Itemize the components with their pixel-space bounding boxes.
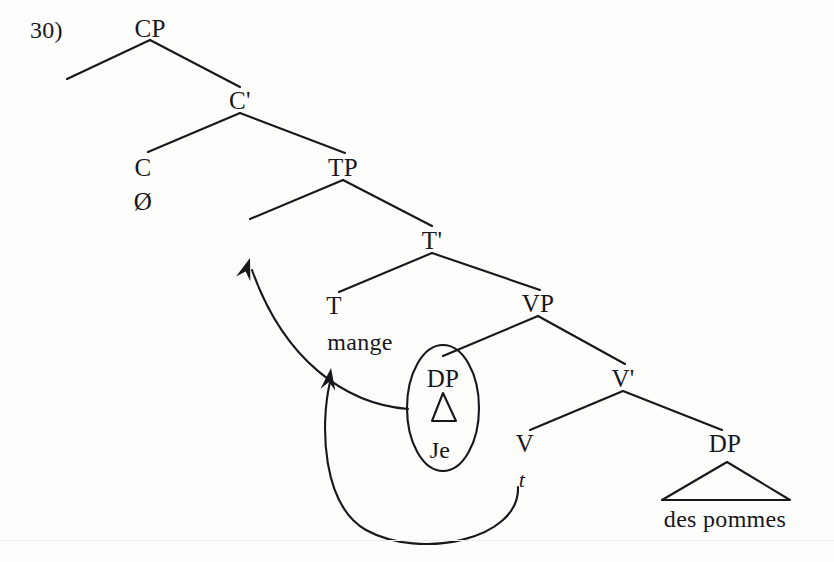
branch-cbar-to-tp — [240, 113, 345, 153]
branch-cbar-to-c — [148, 113, 240, 152]
node-label-t-bar: T' — [422, 228, 442, 253]
branch-tbar-to-vp — [432, 253, 540, 290]
trace-label-t: t — [519, 469, 525, 491]
branch-vbar-to-dp-object — [623, 391, 722, 430]
node-label-cp: CP — [134, 16, 165, 41]
terminal-word-mange: mange — [327, 330, 392, 354]
node-label-dp-object: DP — [709, 431, 742, 456]
node-label-v-bar: V' — [611, 366, 634, 391]
branch-vp-to-vbar — [538, 316, 625, 364]
node-label-dp-subject: DP — [427, 366, 460, 391]
branch-tp-to-tbar — [343, 180, 432, 226]
branch-vbar-to-v — [530, 391, 623, 430]
node-label-tp: TP — [328, 155, 358, 180]
node-label-vp: VP — [522, 291, 555, 316]
terminal-words-des-pommes: des pommes — [664, 507, 786, 531]
node-label-t-head: T — [326, 293, 342, 318]
branch-tbar-to-t — [339, 253, 432, 292]
movement-arrowheads — [236, 256, 338, 391]
example-number-label: 30) — [30, 18, 63, 42]
syntax-tree-figure: 30) CP C' C Ø TP T' T mange VP DP Je V' … — [0, 0, 834, 562]
node-label-null-complementizer: Ø — [134, 189, 152, 214]
node-label-v-head: V — [516, 431, 534, 456]
terminal-word-je: Je — [430, 438, 451, 462]
dp-subject-triangle — [432, 393, 456, 421]
branch-cp-to-empty-spec — [67, 40, 150, 79]
branch-tp-to-empty-spec — [250, 180, 343, 219]
branch-cp-to-cbar — [150, 40, 240, 87]
node-label-c-bar: C' — [229, 88, 251, 113]
scan-artifact-line — [0, 540, 834, 541]
node-label-c-head: C — [135, 155, 152, 180]
object-trace-arrow — [325, 382, 518, 544]
dp-object-triangle — [662, 462, 790, 500]
tree-drawing-canvas — [0, 0, 834, 562]
